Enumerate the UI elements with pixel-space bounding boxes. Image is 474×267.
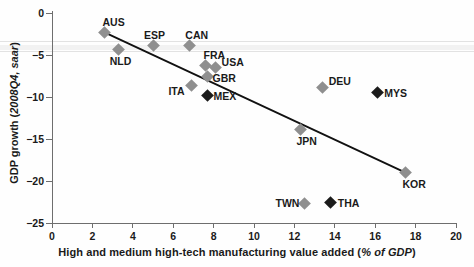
y-axis-title-italic: 2008Q4, saar [8,46,20,114]
data-point-label-esp: ESP [144,30,165,41]
data-point-label-nld: NLD [110,56,132,67]
x-axis-title-tail: ) [412,246,416,258]
data-point-label-mex: MEX [214,91,237,102]
data-point-label-kor: KOR [403,179,426,190]
data-point-label-jpn: JPN [296,136,316,147]
trend-line [0,0,474,267]
x-axis-title-italic: % of GDP [361,246,412,258]
data-point-label-gbr: GBR [213,73,236,84]
data-point-label-twn: TWN [276,198,300,209]
data-point-label-usa: USA [222,57,244,68]
data-point-label-can: CAN [185,30,208,41]
data-point-label-mys: MYS [384,88,407,99]
y-axis-title-plain: GDP growth ( [8,114,20,184]
data-point-label-aus: AUS [103,17,125,28]
data-point-label-ita: ITA [168,86,184,97]
x-axis-title: High and medium high-tech manufacturing … [0,246,474,258]
y-axis-title: GDP growth (2008Q4, saar) [8,13,20,213]
data-point-label-tha: THA [338,198,360,209]
y-axis-title-tail: ) [8,42,20,46]
data-point-label-deu: DEU [329,76,351,87]
scatter-chart: 0−5−10−15−20−25 02468101214161820 AUSNLD… [0,0,474,267]
x-axis-title-plain: High and medium high-tech manufacturing … [58,246,361,258]
